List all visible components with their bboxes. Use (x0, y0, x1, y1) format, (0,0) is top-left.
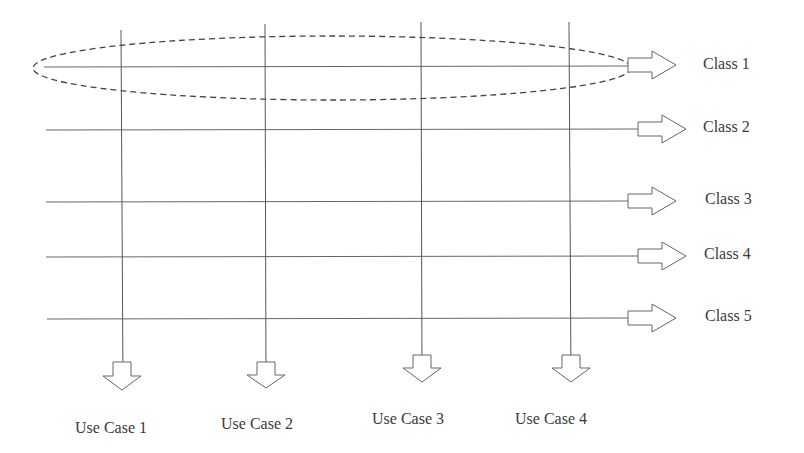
diagram-canvas (0, 0, 804, 453)
class-1-highlight-ellipse (33, 36, 631, 100)
use-case-1-line (121, 30, 123, 386)
use-case-1-label: Use Case 1 (75, 419, 147, 437)
class-3-line (46, 201, 630, 202)
class-2-label: Class 2 (703, 118, 750, 136)
class-1-line (44, 66, 630, 67)
use-case-4-label: Use Case 4 (515, 410, 587, 428)
class-lines (44, 66, 640, 319)
use-case-1-arrow-icon (103, 362, 141, 390)
use-case-lines (121, 22, 571, 386)
class-1-label: Class 1 (703, 55, 750, 73)
class-2-line (46, 129, 640, 130)
use-case-arrows (103, 355, 590, 390)
use-case-3-label: Use Case 3 (372, 410, 444, 428)
class-5-arrow-icon (628, 304, 676, 332)
use-case-2-line (265, 24, 266, 383)
class-2-arrow-icon (638, 115, 686, 143)
class-4-arrow-icon (638, 242, 686, 270)
use-case-3-arrow-icon (403, 355, 441, 382)
class-3-arrow-icon (628, 187, 676, 215)
use-case-2-arrow-icon (247, 362, 285, 388)
class-arrows (628, 51, 686, 332)
class-3-label: Class 3 (705, 190, 752, 208)
use-case-4-arrow-icon (552, 355, 590, 382)
class-4-line (46, 256, 640, 257)
use-case-3-line (421, 22, 422, 380)
class-1-arrow-icon (628, 51, 676, 79)
class-5-label: Class 5 (705, 307, 752, 325)
use-case-2-label: Use Case 2 (221, 415, 293, 433)
class-5-line (47, 318, 630, 319)
class-4-label: Class 4 (704, 245, 751, 263)
